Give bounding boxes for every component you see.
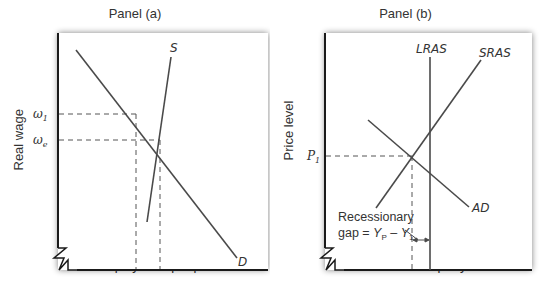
wage-we-label: ωe [33, 133, 48, 149]
panel-a-graph: S D ω1 ωe [0, 0, 270, 289]
ad-label: AD [471, 201, 489, 215]
panel-b: Panel (b) Price level Real GDP per year … [270, 0, 541, 289]
panel-a: Panel (a) Real wage Employment per perio… [0, 0, 270, 289]
supply-label: S [170, 41, 178, 55]
lras-label: LRAS [416, 42, 447, 56]
gap-annotation-line2: gap = YP – Y1 [338, 226, 414, 242]
wage-w1-label: ω1 [33, 107, 48, 123]
gap-annotation-line1: Recessionary [338, 210, 414, 224]
price-p1-label: P1 [306, 149, 320, 165]
demand-label: D [238, 255, 247, 269]
panel-b-graph: LRAS SRAS AD P1 Recessionary gap = YP – … [270, 0, 541, 289]
sras-label: SRAS [479, 46, 511, 60]
